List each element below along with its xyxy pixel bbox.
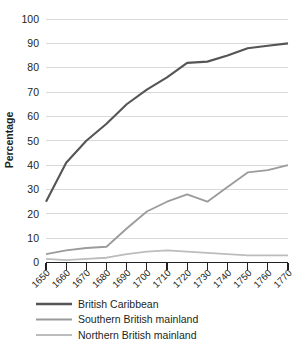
chart-legend: British CaribbeanSouthern British mainla… <box>36 298 198 341</box>
y-axis-tick-label: 100 <box>21 13 39 25</box>
y-axis-title: Percentage <box>3 112 15 169</box>
x-axis-tick-label: 1770 <box>271 267 294 290</box>
x-axis-tick-label: 1650 <box>29 267 52 290</box>
y-axis-tick-label: 20 <box>27 208 39 220</box>
y-axis-tick-label: 90 <box>27 37 39 49</box>
x-axis-tick-label: 1750 <box>231 267 254 290</box>
y-axis-tick-label: 80 <box>27 61 39 73</box>
legend-label: British Caribbean <box>78 298 159 310</box>
legend-label: Southern British mainland <box>78 313 198 325</box>
x-axis-tick-label: 1680 <box>90 267 113 290</box>
x-axis-tick-label: 1730 <box>191 267 214 290</box>
y-axis-tick-label: 40 <box>27 159 39 171</box>
chart-figure: 0102030405060708090100 Percentage 165016… <box>0 0 300 348</box>
y-axis-tick-label: 70 <box>27 86 39 98</box>
x-axis-tick-label: 1660 <box>49 267 72 290</box>
x-axis-tick-label: 1720 <box>170 267 193 290</box>
x-axis-tick-label: 1710 <box>150 267 173 290</box>
legend-label: Northern British mainland <box>78 329 197 341</box>
y-axis-tick-label: 60 <box>27 110 39 122</box>
y-axis-title-text: Percentage <box>3 112 15 169</box>
x-axis-tick-label: 1700 <box>130 267 153 290</box>
line-chart: 0102030405060708090100 Percentage 165016… <box>0 0 300 348</box>
y-axis-tick-label: 0 <box>33 256 39 268</box>
y-axis-tick-label: 10 <box>27 232 39 244</box>
x-axis-tick-label: 1670 <box>70 267 93 290</box>
x-axis-tick-labels: 1650166016701680169017001710172017301740… <box>29 267 294 290</box>
x-axis-tick-label: 1690 <box>110 267 133 290</box>
y-axis-tick-label: 30 <box>27 183 39 195</box>
y-axis-tick-label: 50 <box>27 135 39 147</box>
x-axis-tick-label: 1760 <box>251 267 274 290</box>
y-axis-tick-labels: 0102030405060708090100 <box>21 13 39 269</box>
x-axis-tick-label: 1740 <box>211 267 234 290</box>
